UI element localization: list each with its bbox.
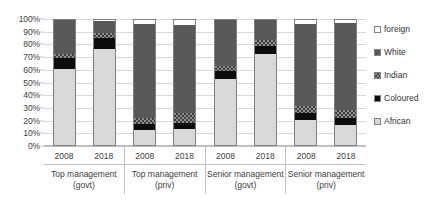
stacked-bar[interactable] xyxy=(214,19,237,146)
legend-label: Indian xyxy=(384,70,407,80)
stacked-bar[interactable] xyxy=(133,19,156,146)
category-group: 20082018Top management(govt) xyxy=(44,147,125,194)
stacked-bar[interactable] xyxy=(173,19,196,146)
category-year-label: 2018 xyxy=(245,147,285,164)
bar-slot xyxy=(44,19,84,146)
legend-swatch-icon xyxy=(374,72,381,79)
bar-segment-african xyxy=(335,125,356,145)
category-group-label: Senior management(govt) xyxy=(206,165,286,194)
category-year-label: 2018 xyxy=(326,147,366,164)
bar-segment-indian xyxy=(174,113,195,123)
category-year-label: 2008 xyxy=(206,147,246,164)
bar-group xyxy=(44,19,125,146)
stacked-bar[interactable] xyxy=(294,19,317,146)
legend-item[interactable]: foreign xyxy=(374,24,444,34)
bar-slot xyxy=(245,19,285,146)
y-axis-tick-label: 40% xyxy=(23,90,40,100)
y-axis: 100%90%80%70%60%50%40%30%20%10%0% xyxy=(0,19,40,146)
bar-segment-african xyxy=(295,120,316,145)
category-year-label: 2008 xyxy=(44,147,84,164)
bar-segment-african xyxy=(174,129,195,145)
bar-segment-white xyxy=(94,21,115,32)
bar-segment-african xyxy=(215,79,236,145)
y-axis-tick-label: 100% xyxy=(19,14,40,24)
category-group-qualifier: (priv) xyxy=(155,180,174,190)
category-year-label: 2008 xyxy=(286,147,326,164)
legend-item[interactable]: Indian xyxy=(374,70,444,80)
category-group-qualifier: (govt) xyxy=(235,180,257,190)
legend-swatch-icon xyxy=(374,49,381,56)
category-year-label: 2008 xyxy=(125,147,165,164)
category-axis: 20082018Top management(govt)20082018Top … xyxy=(44,146,366,194)
bar-segment-white xyxy=(295,24,316,107)
bar-segment-coloured xyxy=(255,46,276,54)
category-group-qualifier: (priv) xyxy=(316,180,335,190)
bar-segment-white xyxy=(215,20,236,66)
bar-slot xyxy=(84,19,124,146)
bar-segment-coloured xyxy=(94,38,115,49)
category-group-qualifier: (govt) xyxy=(73,180,95,190)
stacked-bar-chart: 100%90%80%70%60%50%40%30%20%10%0% 200820… xyxy=(0,0,447,211)
legend-item[interactable]: White xyxy=(374,47,444,57)
bar-group xyxy=(286,19,367,146)
stacked-bar[interactable] xyxy=(334,19,357,146)
category-group-name: Top management xyxy=(132,169,198,179)
stacked-bar[interactable] xyxy=(254,19,277,146)
bar-slot xyxy=(205,19,245,146)
bar-segment-african xyxy=(54,69,75,145)
category-year-label: 2018 xyxy=(165,147,205,164)
bar-segment-white xyxy=(174,25,195,113)
y-axis-tick-label: 90% xyxy=(23,27,40,37)
legend-item[interactable]: Coloured xyxy=(374,93,444,103)
legend-swatch-icon xyxy=(374,118,381,125)
category-year-row: 20082018 xyxy=(286,147,366,165)
category-group: 20082018Senior management(priv) xyxy=(286,147,366,194)
category-year-row: 20082018 xyxy=(125,147,205,165)
bar-slot xyxy=(326,19,366,146)
category-group-label: Top management(priv) xyxy=(125,165,205,194)
y-axis-tick-label: 10% xyxy=(23,128,40,138)
bar-slot xyxy=(125,19,165,146)
stacked-bar[interactable] xyxy=(93,19,116,146)
legend-swatch-icon xyxy=(374,95,381,102)
legend-item[interactable]: African xyxy=(374,116,444,126)
bar-segment-coloured xyxy=(54,58,75,69)
bar-group xyxy=(205,19,286,146)
bar-groups xyxy=(44,19,366,146)
bar-segment-african xyxy=(134,130,155,145)
bar-slot xyxy=(286,19,326,146)
plot-area xyxy=(44,19,366,146)
category-group-name: Senior management xyxy=(207,169,284,179)
category-label-lines: Senior management(govt) xyxy=(207,169,284,191)
category-label-lines: Top management(priv) xyxy=(132,169,198,191)
bar-segment-white xyxy=(255,20,276,40)
bar-segment-white xyxy=(335,23,356,111)
y-axis-tick-label: 50% xyxy=(23,78,40,88)
bar-segment-coloured xyxy=(335,118,356,126)
category-year-row: 20082018 xyxy=(44,147,124,165)
bar-segment-coloured xyxy=(215,71,236,79)
bar-segment-indian xyxy=(335,110,356,118)
category-label-lines: Senior management(priv) xyxy=(288,169,365,191)
category-group-label: Top management(govt) xyxy=(44,165,124,194)
legend-swatch-icon xyxy=(374,26,381,33)
legend-label: Coloured xyxy=(384,93,419,103)
stacked-bar[interactable] xyxy=(53,19,76,146)
category-year-row: 20082018 xyxy=(206,147,286,165)
category-label-lines: Top management(govt) xyxy=(51,169,117,191)
y-axis-tick-label: 20% xyxy=(23,116,40,126)
y-axis-tick-label: 70% xyxy=(23,52,40,62)
category-group: 20082018Senior management(govt) xyxy=(206,147,287,194)
category-group: 20082018Top management(priv) xyxy=(125,147,206,194)
bar-segment-white xyxy=(54,20,75,54)
bar-group xyxy=(125,19,206,146)
category-group-name: Senior management xyxy=(288,169,365,179)
category-group-name: Top management xyxy=(51,169,117,179)
y-axis-tick-label: 30% xyxy=(23,103,40,113)
category-year-label: 2018 xyxy=(84,147,124,164)
legend-label: African xyxy=(384,116,410,126)
legend: foreignWhiteIndianColouredAfrican xyxy=(374,24,444,126)
bar-segment-african xyxy=(255,54,276,145)
y-axis-tick-label: 60% xyxy=(23,65,40,75)
y-axis-tick-label: 80% xyxy=(23,39,40,49)
